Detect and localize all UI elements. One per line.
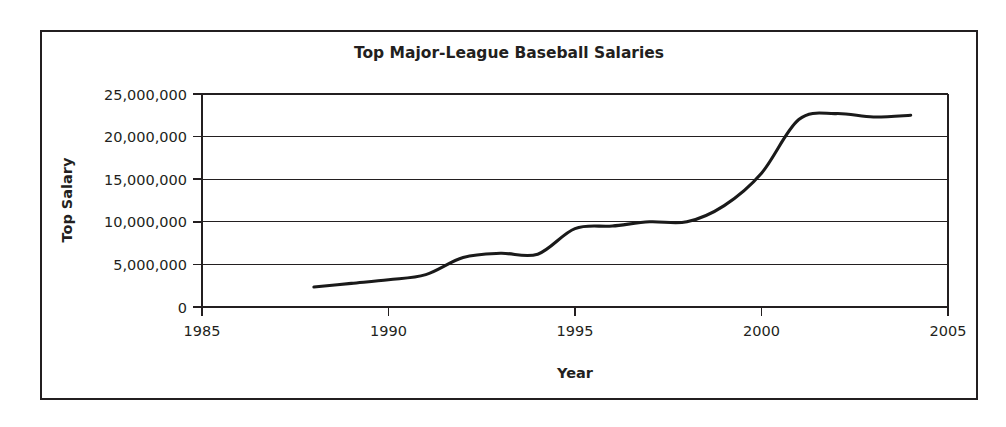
x-tick-label: 1985 (184, 323, 221, 339)
y-axis-title: Top Salary (59, 157, 75, 242)
salary-line-chart: Top Major-League Baseball Salaries 05,00… (0, 0, 1006, 427)
x-tick-label: 2000 (743, 323, 780, 339)
y-tick-label: 15,000,000 (104, 172, 187, 188)
y-tick-label: 0 (178, 300, 187, 316)
chart-title: Top Major-League Baseball Salaries (354, 44, 664, 62)
x-tick-labels: 19851990199520002005 (184, 323, 967, 339)
x-tick-label: 1990 (370, 323, 407, 339)
y-tick-label: 5,000,000 (113, 257, 187, 273)
y-tick-labels: 05,000,00010,000,00015,000,00020,000,000… (104, 87, 187, 316)
x-axis-title: Year (556, 365, 594, 381)
x-tick-label: 1995 (557, 323, 594, 339)
gridlines (202, 94, 948, 264)
y-tick-label: 25,000,000 (104, 87, 187, 103)
figure-root: Top Major-League Baseball Salaries 05,00… (0, 0, 1006, 427)
y-tick-marks (193, 94, 202, 307)
x-tick-label: 2005 (930, 323, 967, 339)
y-tick-label: 20,000,000 (104, 129, 187, 145)
salary-data-line (314, 113, 911, 287)
x-tick-marks (202, 307, 948, 316)
y-tick-label: 10,000,000 (104, 214, 187, 230)
